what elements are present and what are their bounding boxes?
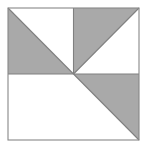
figure-canvas: Square divided into four quadrants with … — [0, 0, 147, 152]
shaded-square-diagram: Square divided into four quadrants with … — [0, 0, 147, 152]
